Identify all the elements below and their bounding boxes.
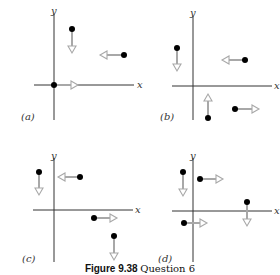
- point-dot: [205, 115, 211, 121]
- figure-caption-text: Question 6: [140, 263, 195, 274]
- point-dot: [69, 26, 75, 32]
- vector-arrow-right: [197, 175, 223, 183]
- vector-arrow-down: [110, 233, 118, 260]
- vector-arrow-left: [58, 173, 83, 181]
- point-dot: [121, 52, 127, 58]
- panel-b: x y (b): [160, 7, 280, 122]
- vector-arrow-down: [179, 169, 187, 196]
- vector-arrow-down: [68, 26, 76, 53]
- point-dot: [244, 199, 250, 205]
- point-dot: [111, 233, 117, 239]
- vector-arrow-right: [232, 105, 259, 113]
- vector-arrow-up: [204, 94, 212, 121]
- panel-label-b: (b): [160, 111, 174, 122]
- vector-field-figure: x y (a) x y (b): [0, 0, 280, 275]
- point-dot: [174, 45, 180, 51]
- point-dot: [180, 169, 186, 175]
- vector-arrow-left: [100, 51, 127, 59]
- vector-arrow-down: [243, 199, 251, 226]
- panel-a: x y (a): [21, 5, 143, 122]
- point-dot: [181, 220, 187, 226]
- vector-arrow-left: [222, 56, 248, 64]
- point-dot: [197, 176, 203, 182]
- x-axis-label: x: [135, 204, 141, 215]
- y-axis-label: y: [50, 5, 57, 16]
- figure-caption: Figure 9.38 Question 6: [0, 263, 280, 274]
- panel-label-a: (a): [21, 111, 35, 122]
- vector-arrow-down: [173, 45, 181, 71]
- point-dot: [242, 57, 248, 63]
- vector-arrow-right: [181, 219, 207, 227]
- x-axis-label: x: [137, 79, 143, 90]
- panel-c: x y (c): [22, 150, 141, 264]
- point-dot: [36, 169, 42, 175]
- figure-number: Figure 9.38: [85, 263, 138, 274]
- vector-arrow-right: [51, 81, 78, 89]
- vector-arrow-right: [91, 214, 117, 222]
- point-dot: [232, 106, 238, 112]
- y-axis-label: y: [189, 150, 196, 161]
- y-axis-label: y: [189, 7, 196, 18]
- point-dot: [77, 174, 83, 180]
- point-dot: [51, 82, 57, 88]
- x-axis-label: x: [274, 205, 280, 216]
- x-axis-label: x: [274, 80, 280, 91]
- vector-arrow-down: [35, 169, 43, 195]
- point-dot: [91, 215, 97, 221]
- y-axis-label: y: [50, 150, 57, 161]
- panel-d: x y (d): [158, 150, 280, 264]
